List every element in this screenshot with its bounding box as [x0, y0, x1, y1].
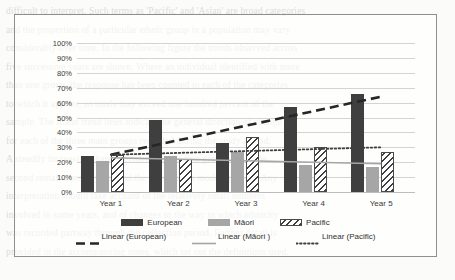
legend-item[interactable]: Linear (Māori )	[192, 232, 270, 241]
x-axis-tick-label: Year 3	[212, 199, 280, 208]
legend-swatch	[192, 233, 214, 240]
trendlines	[77, 43, 415, 192]
trendline-linearpacific	[111, 147, 381, 154]
trendline-lineareuropean	[111, 97, 381, 155]
legend-label: Pacific	[306, 218, 330, 227]
legend-label: European	[147, 218, 182, 227]
y-axis-tick-label: 30%	[57, 143, 72, 152]
x-axis-tick-label: Year 4	[280, 199, 348, 208]
x-axis-tick-label: Year 1	[77, 199, 145, 208]
legend-swatch	[121, 219, 143, 226]
x-axis-tick-label: Year 2	[145, 199, 213, 208]
legend-label: Māori	[234, 218, 254, 227]
y-axis-tick-label: 80%	[57, 68, 72, 77]
y-axis-tick-label: 0%	[61, 188, 72, 197]
legend-item[interactable]: Linear (Pacific)	[296, 232, 375, 241]
chart-frame: 0%10%20%30%40%50%60%70%80%90%100% Year 1…	[14, 14, 437, 257]
legend-item[interactable]: Pacific	[280, 218, 330, 227]
legend-swatch	[208, 219, 230, 226]
y-axis-tick-label: 60%	[57, 98, 72, 107]
y-axis-tick-label: 40%	[57, 128, 72, 137]
x-axis-tick-label: Year 5	[347, 199, 415, 208]
trendline-linearmori	[111, 158, 381, 164]
legend-item[interactable]: European	[121, 218, 182, 227]
plot-area: 0%10%20%30%40%50%60%70%80%90%100% Year 1…	[77, 43, 415, 192]
y-axis-tick-label: 70%	[57, 83, 72, 92]
y-axis-tick-label: 50%	[57, 113, 72, 122]
legend-label: Linear (Pacific)	[322, 232, 375, 241]
gridline: 0%	[77, 192, 415, 193]
y-axis-tick-label: 90%	[57, 53, 72, 62]
legend-swatch	[296, 233, 318, 240]
legend-label: Linear (Māori )	[218, 232, 270, 241]
y-axis-tick-label: 100%	[53, 39, 72, 48]
legend-item[interactable]: Māori	[208, 218, 254, 227]
legend-swatch	[280, 219, 302, 226]
y-axis-tick-label: 10%	[57, 173, 72, 182]
legend-label: Linear (European)	[102, 232, 166, 241]
legend-item[interactable]: Linear (European)	[76, 232, 166, 241]
chart-legend: EuropeanMāoriPacificLinear (European)Lin…	[15, 218, 436, 246]
legend-row: EuropeanMāoriPacific	[15, 218, 436, 227]
legend-swatch	[76, 233, 98, 240]
legend-row: Linear (European)Linear (Māori )Linear (…	[15, 232, 436, 241]
y-axis-tick-label: 20%	[57, 158, 72, 167]
